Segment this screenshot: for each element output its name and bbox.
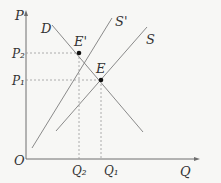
q1-tick-label: Q₁ <box>104 164 119 178</box>
supply-prime-label: S' <box>115 14 127 29</box>
supply-label: S <box>146 32 155 47</box>
p2-tick-label: P₂ <box>11 47 25 61</box>
origin-label: O <box>14 153 25 168</box>
q2-tick-label: Q₂ <box>72 164 87 178</box>
equilibrium-point-e <box>99 78 104 83</box>
y-axis-arrow-icon <box>24 10 28 16</box>
supply-demand-diagram: P Q O D S' S E' E P₂ P₁ Q₂ Q₁ <box>0 0 221 183</box>
x-axis-label: Q <box>180 164 191 179</box>
x-axis-arrow-icon <box>194 157 200 161</box>
p1-tick-label: P₁ <box>11 74 25 88</box>
supply-curve-s-prime <box>32 18 112 148</box>
point-e-prime-label: E' <box>73 34 87 49</box>
demand-label: D <box>40 21 52 36</box>
equilibrium-point-e-prime <box>77 51 82 56</box>
point-e-label: E <box>95 61 106 76</box>
diagram-canvas: P Q O D S' S E' E P₂ P₁ Q₂ Q₁ <box>0 0 221 183</box>
y-axis-label: P <box>14 8 24 23</box>
